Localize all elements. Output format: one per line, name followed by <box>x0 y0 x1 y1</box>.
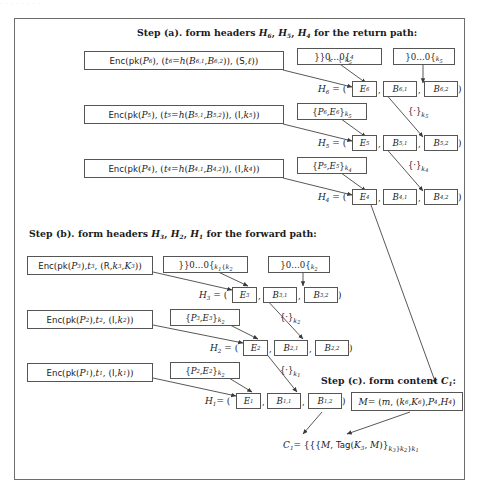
cell-b5-2: B5,2 <box>424 135 458 151</box>
paren-close-b3: ) <box>342 396 346 406</box>
cell-e3: E3 <box>232 287 257 303</box>
pad-box-a1-right: }0…0{k5 <box>393 48 455 65</box>
content-c1-formula: C1= {{{M, Tag(K3, M)}k3}k2}k1 <box>283 440 419 451</box>
enc-box-p6: Enc(pk(P6), (t6 = h(B6,1, B6,2)), (S, ℓ)… <box>84 51 284 70</box>
enc-box-p5: Enc(pk(P5), (t5 = h(B5,1, B5,2)), (I, k5… <box>84 105 284 124</box>
set-box-a3-left: {P5, E5}k4 <box>297 157 367 174</box>
header-label-h3: H3 = ( <box>199 290 227 301</box>
cell-b1-2: B1,2 <box>308 393 342 409</box>
step-c-heading: Step (c). form content C1: <box>321 375 456 387</box>
pad-box-a1-left: }}0…0{4⁠ k { k5 <box>297 48 382 65</box>
dot-set-b2-right: {·}k2 <box>280 312 300 322</box>
header-label-h1: H1= ( <box>205 396 230 407</box>
cell-b4-2: B4,2 <box>424 189 458 205</box>
set-box-a2-left: {P6, E6}k5 <box>297 103 367 120</box>
comma-b3-1: , <box>262 397 265 407</box>
comma-b3-2: , <box>302 397 305 407</box>
enc-box-p3: Enc(pk(P3), t3, (R, k3, K3)) <box>27 256 153 275</box>
cell-b6-2: B6,2 <box>424 81 458 97</box>
enc-box-p2: Enc(pk(P2), t2, (I, k2)) <box>27 310 153 329</box>
pad-box-b1-left: }}0…0{k1{k2 <box>163 256 248 273</box>
message-box-m: M = (m, (k6, K6), P4, H4) <box>351 392 463 411</box>
header-label-h5: H5 = ( <box>318 138 346 149</box>
step-b-heading: Step (b). form headers H3, H2, H1 for th… <box>29 228 317 240</box>
paren-close-a3: ) <box>458 192 462 202</box>
clipped-top-text: · · · · · · · · <box>0 0 479 9</box>
paren-close-b1: ) <box>338 290 342 300</box>
pad-box-b1-right: }0…0{k2 <box>268 256 330 273</box>
set-box-b3-left: {P2, E2}k2 <box>170 362 240 379</box>
cell-b3-2: B3,2 <box>304 287 338 303</box>
comma-b1-1: , <box>258 291 261 301</box>
header-label-h4: H4 = ( <box>318 192 346 203</box>
paren-close-a2: ) <box>458 138 462 148</box>
step-a-heading: Step (a). form headers H6, H5, H4 for th… <box>137 27 417 39</box>
cell-b5-1: B5,1 <box>383 135 417 151</box>
enc-box-p1: Enc(pk(P1), t1, (I, k1)) <box>27 363 153 382</box>
comma-a3-1: , <box>378 193 381 203</box>
cell-b2-2: B2,2 <box>315 340 349 356</box>
paren-close-b2: ) <box>349 343 353 353</box>
cell-b4-1: B4,1 <box>383 189 417 205</box>
cell-b3-1: B3,1 <box>263 287 297 303</box>
cell-e2: E2 <box>243 340 268 356</box>
cell-e4: E4 <box>352 189 377 205</box>
dot-set-a3-right: {·}k4 <box>408 160 428 170</box>
header-label-h2: H2 = ( <box>210 343 238 354</box>
paren-close-a1: ) <box>458 84 462 94</box>
comma-b2-2: , <box>309 344 312 354</box>
dot-set-a2-right: {·}k5 <box>408 106 428 116</box>
cell-e6: E6 <box>352 81 377 97</box>
cell-b1-1: B1,1 <box>267 393 301 409</box>
comma-b1-2: , <box>298 291 301 301</box>
comma-a1-2: , <box>418 85 421 95</box>
comma-a2-1: , <box>378 139 381 149</box>
header-label-h6: H6 = ( <box>318 84 346 95</box>
cell-e5: E5 <box>352 135 377 151</box>
enc-box-p4: Enc(pk(P4), (t4 = h(B4,1, B4,2)), (I, k4… <box>84 159 284 178</box>
comma-a3-2: , <box>418 193 421 203</box>
cell-b2-1: B2,1 <box>274 340 308 356</box>
dot-set-b3-right: {·}k1 <box>280 365 300 375</box>
set-box-b2-left: {P3, E3}k2 <box>170 309 240 326</box>
comma-b2-1: , <box>269 344 272 354</box>
comma-a1-1: , <box>378 85 381 95</box>
comma-a2-2: , <box>418 139 421 149</box>
cell-e1: E1 <box>236 393 261 409</box>
cell-b6-1: B6,1 <box>383 81 417 97</box>
figure-canvas: · · · · · · · · <box>0 0 479 492</box>
